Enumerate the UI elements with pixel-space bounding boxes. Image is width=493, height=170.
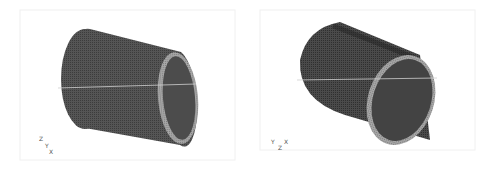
triad-label-3: X	[49, 149, 53, 155]
triad-label-1: Z	[39, 136, 43, 142]
panel-left: Z Y X	[0, 0, 245, 170]
cylinder-back-end	[61, 29, 109, 129]
triad-label-2: X	[284, 139, 288, 145]
triad-label-1: Y	[271, 139, 275, 145]
cylinder-mesh-right	[245, 0, 493, 170]
panel-right: Y X Z	[245, 0, 493, 170]
triad-label-3: Z	[278, 145, 282, 151]
cylinder-mesh-left	[0, 0, 245, 170]
